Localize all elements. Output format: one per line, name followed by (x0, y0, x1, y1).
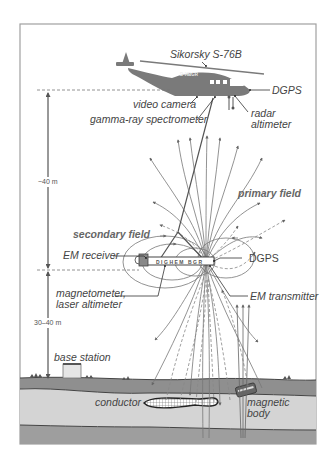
bird-text: DIGHEM BGR (156, 259, 204, 265)
label-em-receiver: EM receiver (63, 249, 120, 261)
label-em-transmitter: EM transmitter (250, 290, 319, 302)
label-base-station: base station (54, 351, 111, 363)
upper-height-label: ~40 m (38, 178, 58, 185)
label-video-camera: video camera (133, 98, 196, 110)
label-sikorsky: Sikorsky S-76B (170, 48, 242, 60)
conductor-body (144, 398, 218, 408)
ground-layers (20, 373, 316, 444)
label-dgps-heli: DGPS (272, 84, 302, 96)
label-primary-field: primary field (237, 187, 302, 199)
label-radar-2: altimeter (251, 118, 292, 130)
helicopter-registration: D-HBGR (180, 72, 199, 77)
label-magnetometer-2: laser altimeter (56, 298, 122, 310)
label-conductor: conductor (95, 396, 142, 408)
lower-height-label: 30–40 m (34, 319, 61, 326)
label-magnetic-2: body (247, 407, 271, 419)
survey-diagram: DIGHEM BGR D-HBGR ~40 m 30–40 m (0, 0, 333, 468)
label-dgps-bird: DGPS (249, 252, 279, 264)
base-station (63, 363, 81, 378)
label-gamma-ray: gamma-ray spectrometer (90, 113, 208, 125)
label-secondary-field: secondary field (73, 228, 151, 240)
